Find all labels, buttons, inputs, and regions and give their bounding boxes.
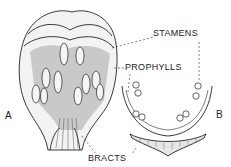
- botanical-diagram: [0, 0, 231, 167]
- label-panel-b: B: [216, 110, 223, 120]
- label-stamens: STAMENS: [153, 29, 198, 38]
- stamens-b: [133, 82, 201, 121]
- stamen: [76, 47, 84, 65]
- stamen: [41, 88, 48, 104]
- label-bracts: BRACTS: [88, 154, 126, 163]
- stamen: [32, 85, 40, 103]
- stamen: [74, 87, 82, 105]
- stamen: [42, 68, 50, 88]
- stamen: [54, 71, 62, 93]
- label-prophylls: PROPHYLLS: [125, 63, 182, 72]
- stamen: [97, 84, 104, 100]
- prophylls-leader-b: [128, 74, 130, 92]
- stamen: [82, 74, 90, 94]
- label-panel-a: A: [5, 111, 12, 121]
- stamens-leader: [112, 37, 154, 48]
- stamen: [60, 43, 68, 65]
- stamen-glyph: [195, 83, 201, 89]
- inflorescence-cup-a: [19, 11, 117, 150]
- bracts-leader-b: [132, 148, 136, 154]
- stamen-glyph: [133, 82, 139, 88]
- stamen-glyph: [133, 111, 139, 117]
- bract-b: [130, 134, 206, 156]
- stamen-glyph: [177, 115, 183, 121]
